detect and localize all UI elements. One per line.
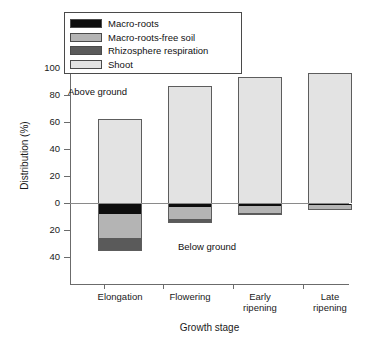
annotation-above-ground: Above ground bbox=[68, 86, 127, 97]
segment-shoot-flowering bbox=[168, 86, 212, 203]
bar-flowering-above bbox=[168, 86, 212, 203]
x-label-early-ripening: Early ripening bbox=[228, 291, 292, 313]
segment-macro-roots-elongation bbox=[98, 204, 142, 214]
annotation-below-ground: Below ground bbox=[178, 241, 236, 252]
x-label-late-ripening: Late ripening bbox=[298, 291, 362, 313]
bar-early-ripening-below bbox=[238, 204, 282, 215]
legend-label-shoot: Shoot bbox=[108, 59, 133, 70]
x-label-early-ripening-line2: ripening bbox=[228, 302, 292, 313]
bar-elongation-above bbox=[98, 119, 142, 203]
bar-early-ripening-above bbox=[238, 77, 282, 203]
bar-flowering-below bbox=[168, 204, 212, 224]
bar-late-ripening-below bbox=[308, 204, 352, 210]
legend-swatch-macro-roots-free-soil bbox=[70, 33, 102, 42]
legend-swatch-shoot bbox=[70, 60, 102, 69]
bar-late-ripening-above bbox=[308, 73, 352, 203]
segment-macro-roots-free-soil-elongation bbox=[98, 214, 142, 238]
y-tick-mark-m40 bbox=[64, 257, 70, 258]
legend-label-macro-roots-free-soil: Macro-roots-free soil bbox=[108, 32, 195, 43]
segment-rhizosphere-respiration-late-ripening bbox=[308, 209, 352, 210]
y-tick-label-m40: 40 bbox=[26, 252, 60, 262]
x-tick-mark-early-ripening bbox=[233, 284, 234, 289]
segment-shoot-early-ripening bbox=[238, 77, 282, 203]
legend-item-shoot: Shoot bbox=[70, 58, 236, 72]
x-axis-title: Growth stage bbox=[70, 322, 349, 333]
y-tick-label-100: 100 bbox=[26, 63, 60, 73]
bar-elongation-below bbox=[98, 204, 142, 252]
legend-item-rhizosphere-respiration: Rhizosphere respiration bbox=[70, 44, 236, 58]
y-tick-mark-40 bbox=[64, 149, 70, 150]
legend-label-rhizosphere-respiration: Rhizosphere respiration bbox=[108, 45, 208, 56]
x-label-flowering-line1: Flowering bbox=[155, 291, 225, 302]
legend-item-macro-roots: Macro-roots bbox=[70, 17, 236, 31]
chart-legend: Macro-roots Macro-roots-free soil Rhizos… bbox=[64, 12, 242, 74]
y-tick-mark-m20 bbox=[64, 230, 70, 231]
segment-rhizosphere-respiration-early-ripening bbox=[238, 213, 282, 215]
y-tick-mark-60 bbox=[64, 122, 70, 123]
y-tick-label-20: 20 bbox=[26, 171, 60, 181]
y-axis-line bbox=[70, 66, 71, 285]
x-tick-mark-elongation bbox=[104, 284, 105, 289]
x-label-elongation: Elongation bbox=[83, 291, 157, 302]
legend-swatch-rhizosphere-respiration bbox=[70, 46, 102, 55]
legend-swatch-macro-roots bbox=[70, 19, 102, 28]
segment-shoot-elongation bbox=[98, 119, 142, 203]
y-tick-label-40: 40 bbox=[26, 144, 60, 154]
y-tick-label-60: 60 bbox=[26, 117, 60, 127]
y-tick-label-m20: 20 bbox=[26, 225, 60, 235]
x-tick-mark-flowering bbox=[163, 284, 164, 289]
x-label-early-ripening-line1: Early bbox=[228, 291, 292, 302]
x-label-elongation-line1: Elongation bbox=[83, 291, 157, 302]
legend-label-macro-roots: Macro-roots bbox=[108, 18, 159, 29]
y-tick-label-80: 80 bbox=[26, 90, 60, 100]
x-axis-line bbox=[70, 284, 349, 285]
legend-item-macro-roots-free-soil: Macro-roots-free soil bbox=[70, 31, 236, 45]
segment-macro-roots-free-soil-flowering bbox=[168, 207, 212, 219]
y-tick-mark-0 bbox=[64, 203, 70, 204]
y-tick-mark-20 bbox=[64, 176, 70, 177]
y-tick-label-0: 0 bbox=[26, 198, 60, 208]
y-axis-title: Distribution (%) bbox=[19, 66, 30, 246]
x-label-late-ripening-line1: Late bbox=[298, 291, 362, 302]
x-label-late-ripening-line2: ripening bbox=[298, 302, 362, 313]
chart-figure: 100 80 60 40 20 0 20 40 Distribution (%)… bbox=[0, 0, 372, 343]
segment-shoot-late-ripening bbox=[308, 73, 352, 203]
segment-macro-roots-free-soil-early-ripening bbox=[238, 206, 282, 213]
x-tick-mark-late-ripening bbox=[303, 284, 304, 289]
x-label-flowering: Flowering bbox=[155, 291, 225, 302]
segment-rhizosphere-respiration-elongation bbox=[98, 238, 142, 252]
segment-rhizosphere-respiration-flowering bbox=[168, 219, 212, 223]
